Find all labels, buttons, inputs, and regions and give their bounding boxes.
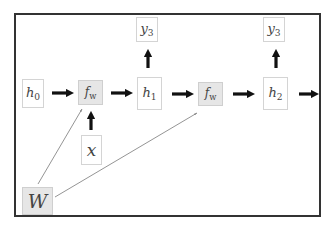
node-h0-label: h0 bbox=[26, 85, 40, 102]
node-y3-left: y3 bbox=[136, 17, 158, 42]
line-W-to-fw2 bbox=[55, 113, 197, 197]
node-h2-label: h2 bbox=[268, 85, 282, 102]
node-h1-label: h1 bbox=[142, 85, 156, 102]
node-W: W bbox=[22, 187, 53, 215]
node-h1: h1 bbox=[137, 77, 162, 110]
node-W-label: W bbox=[28, 190, 48, 212]
node-h2: h2 bbox=[263, 77, 288, 110]
node-h0: h0 bbox=[22, 79, 44, 108]
node-fw2-label: fw bbox=[205, 86, 217, 102]
node-fw2: fw bbox=[198, 82, 223, 106]
line-W-to-fw1 bbox=[38, 109, 82, 184]
node-x-label: x bbox=[87, 140, 97, 160]
node-y3-right: y3 bbox=[263, 17, 285, 42]
node-y3-right-label: y3 bbox=[267, 21, 280, 38]
node-y3-left-label: y3 bbox=[140, 21, 153, 38]
node-fw1: fw bbox=[78, 80, 103, 105]
node-x: x bbox=[81, 135, 102, 165]
node-fw1-label: fw bbox=[85, 85, 97, 101]
